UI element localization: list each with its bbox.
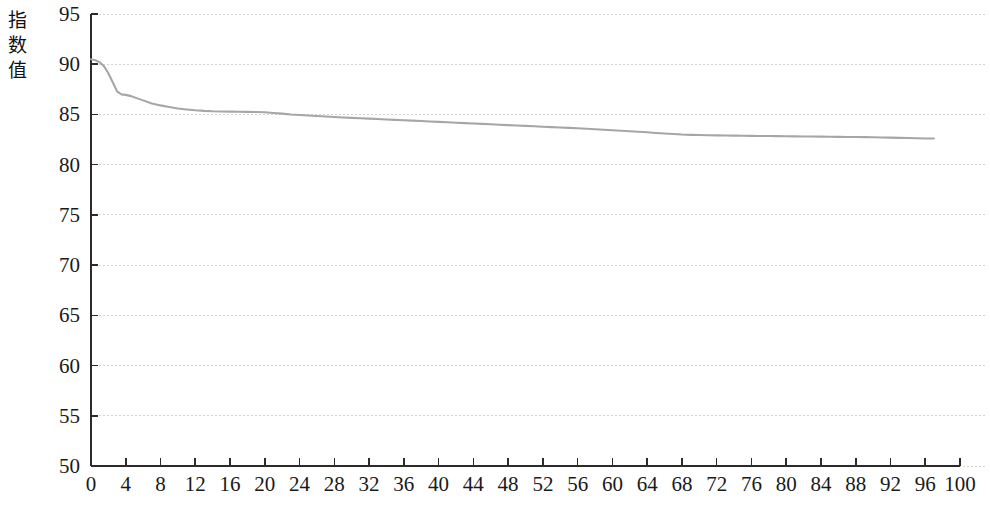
gridlines xyxy=(91,14,985,466)
series-line-0 xyxy=(91,59,934,138)
data-series xyxy=(91,59,934,138)
plot-area xyxy=(0,0,990,510)
tick-marks xyxy=(91,14,960,466)
axes xyxy=(91,14,960,466)
line-chart: 指数值 505560657075808590950481216202428323… xyxy=(0,0,990,510)
